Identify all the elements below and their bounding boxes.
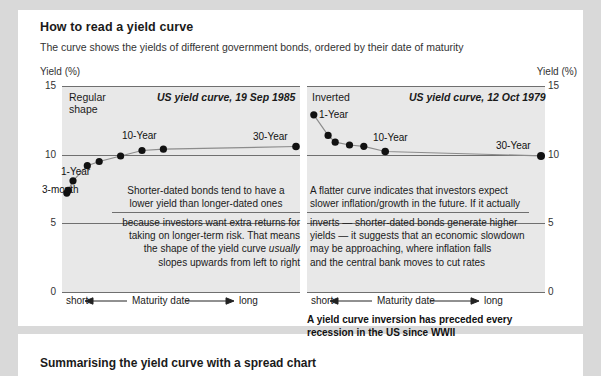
note-bottom-regular-line1: because investors want extra returns for: [112, 216, 300, 229]
note-top-inverted: A flatter curve indicates that investors…: [310, 184, 538, 210]
note-top-regular-line1: Shorter-dated bonds tend to have a: [112, 184, 300, 197]
xaxis-right-mid: Maturity date: [377, 295, 435, 306]
point-label-3month: 3-month: [42, 184, 79, 195]
xaxis-left-long: long: [239, 295, 258, 306]
point-label-30year-left: 30-Year: [253, 131, 288, 142]
note-top-inverted-line1: A flatter curve indicates that investors…: [310, 184, 538, 197]
panel-shape-label-inverted: Inverted: [312, 91, 350, 103]
note-bottom-inverted-line4: and the central bank moves to cut rates: [310, 256, 542, 269]
note-separator-regular: [112, 212, 300, 213]
note-bottom-inverted-line3: may be approaching, where inflation fall…: [310, 242, 542, 255]
note-top-regular-line2: lower yield than longer-dated ones: [112, 197, 300, 210]
note-bottom-regular-line2: taking on longer-term risk. That means: [112, 229, 300, 242]
xaxis-right-short: short: [311, 295, 333, 306]
emphasis-usually: usually: [269, 243, 300, 254]
xaxis-right: short Maturity date long: [307, 295, 545, 309]
xaxis-right-long: long: [484, 295, 503, 306]
inversion-kicker: A yield curve inversion has preceded eve…: [307, 314, 512, 339]
inversion-kicker-line1: A yield curve inversion has preceded eve…: [307, 314, 512, 327]
xaxis-left: short Maturity date long: [62, 295, 300, 309]
note-top-inverted-line2: slower inflation/growth in the future. I…: [310, 197, 538, 210]
note-separator-inverted: [307, 212, 529, 213]
panel-shape-label-inverted-line1: Inverted: [312, 91, 350, 103]
point-label-30year-right: 30-Year: [496, 140, 531, 151]
xaxis-left-short: short: [66, 295, 88, 306]
panel-date-inverted: US yield curve, 12 Oct 1979: [409, 91, 546, 103]
xaxis-left-mid: Maturity date: [132, 295, 190, 306]
inversion-kicker-line2: recession in the US since WWII: [307, 327, 512, 340]
note-bottom-inverted-line1: inverts — shorter-dated bonds generate h…: [310, 216, 542, 229]
footer-title: Summarising the yield curve with a sprea…: [40, 356, 316, 370]
infographic-page: How to read a yield curve The curve show…: [0, 0, 601, 376]
note-top-regular: Shorter-dated bonds tend to have a lower…: [112, 184, 300, 210]
note-bottom-regular: because investors want extra returns for…: [112, 216, 300, 269]
note-bottom-inverted-line2: yields — it suggests that an economic sl…: [310, 229, 542, 242]
note-bottom-inverted: inverts — shorter-dated bonds generate h…: [310, 216, 542, 269]
note-bottom-regular-line4: slopes upwards from left to right: [112, 256, 300, 269]
point-label-1year-right: 1-Year: [319, 109, 348, 120]
point-label-10year-left: 10-Year: [122, 130, 157, 141]
point-label-1year-left: 1-Year: [61, 166, 90, 177]
point-label-10year-right: 10-Year: [373, 132, 408, 143]
note-bottom-regular-line3: the shape of the yield curve usually: [112, 242, 300, 255]
